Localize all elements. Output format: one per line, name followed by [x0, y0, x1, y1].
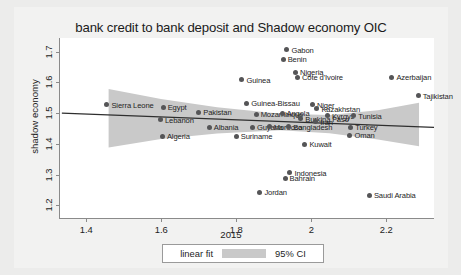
point-label: Benin — [288, 55, 307, 64]
point-label: Gabon — [291, 45, 313, 54]
point-label: Guinea — [246, 75, 270, 84]
y-tick-mark — [56, 113, 60, 114]
y-tick-mark — [56, 205, 60, 206]
point-label: Saudi Arabia — [374, 191, 416, 200]
x-axis-label: 2015 — [14, 229, 448, 240]
point-label: Tunisia — [358, 111, 382, 120]
chart-title: bank credit to bank deposit and Shadow e… — [14, 20, 448, 35]
point-label: Tajikistan — [423, 91, 453, 100]
y-tick-mark — [56, 52, 60, 53]
chart-figure: bank credit to bank deposit and Shadow e… — [14, 7, 448, 268]
scatter-point — [295, 75, 300, 80]
scatter-point — [281, 57, 286, 62]
scatter-point — [196, 110, 201, 115]
scatter-point — [254, 112, 259, 117]
chart-legend: linear fit 95% CI — [162, 244, 324, 263]
y-tick-mark — [56, 82, 60, 83]
point-label: Sierra Leone — [111, 100, 153, 109]
point-label: Suriname — [241, 132, 273, 141]
y-tick-mark — [56, 175, 60, 176]
x-tick-mark — [86, 218, 87, 222]
scatter-point — [283, 176, 288, 181]
plot-area: 1.21.31.41.51.61.7 1.41.61.822.2 GabonBe… — [59, 38, 434, 219]
scatter-point — [348, 125, 353, 130]
legend-label-ci: 95% CI — [275, 248, 306, 259]
point-label: Azerbaijan — [396, 73, 431, 82]
point-label: Algeria — [167, 132, 190, 141]
x-tick-mark — [311, 218, 312, 222]
scatter-point — [250, 125, 255, 130]
scatter-point — [257, 190, 262, 195]
legend-swatch-ci — [222, 249, 266, 258]
y-tick-mark — [56, 144, 60, 145]
y-axis-label: shadow economy — [29, 62, 40, 172]
x-tick-mark — [161, 218, 162, 222]
scatter-point — [234, 134, 239, 139]
scatter-point — [160, 134, 165, 139]
point-label: Egypt — [168, 103, 187, 112]
scatter-point — [244, 101, 249, 106]
point-label: Côte d'Ivoire — [302, 73, 343, 82]
scatter-point — [293, 70, 298, 75]
point-label: Albania — [214, 123, 239, 132]
point-label: Kuwait — [309, 140, 331, 149]
plot-inner: 1.21.31.41.51.61.7 1.41.61.822.2 GabonBe… — [60, 38, 434, 218]
point-label: Lebanon — [165, 115, 194, 124]
scatter-point — [280, 111, 285, 116]
legend-label-linear-fit: linear fit — [180, 248, 213, 259]
point-label: Oman — [354, 131, 374, 140]
point-label: Jordan — [264, 188, 287, 197]
point-label: Bangladesh — [293, 122, 332, 131]
point-label: Bahrain — [290, 174, 315, 183]
x-tick-mark — [236, 218, 237, 222]
scatter-point — [207, 125, 212, 130]
scatter-point — [161, 105, 166, 110]
x-tick-mark — [386, 218, 387, 222]
point-label: Guinea-Bissau — [251, 99, 300, 108]
point-label: Pakistan — [203, 108, 231, 117]
scatter-point — [267, 124, 272, 129]
scatter-point — [416, 93, 421, 98]
scatter-point — [367, 193, 372, 198]
